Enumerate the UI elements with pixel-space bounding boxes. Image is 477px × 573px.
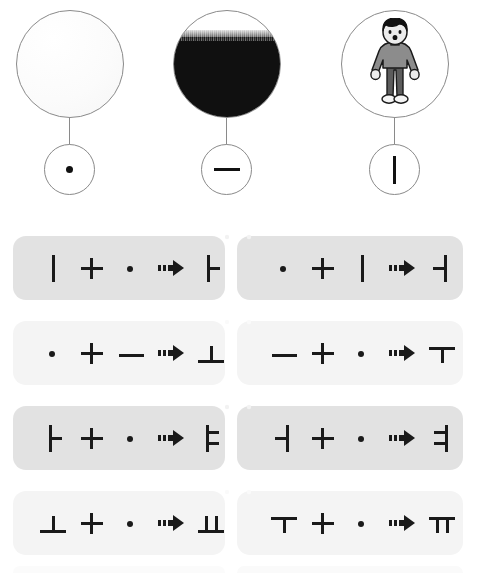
equation-row	[0, 231, 477, 303]
equation-pill[interactable]	[237, 321, 463, 385]
vertical-bar-jamo-icon	[349, 253, 375, 283]
equation	[245, 338, 455, 368]
plus-icon	[79, 338, 105, 368]
origin-connector-line	[394, 118, 395, 146]
right-arrow-icon	[388, 508, 416, 538]
origin-item-earth[interactable]	[163, 6, 293, 211]
vertical-bar-jamo-icon	[393, 156, 396, 184]
equation	[14, 508, 224, 538]
dot-jamo-icon	[349, 338, 375, 368]
vowel-combination-section	[0, 231, 477, 571]
equation-pill[interactable]	[13, 491, 225, 555]
right-arrow-icon	[157, 508, 185, 538]
dot-jamo-icon	[349, 508, 375, 538]
u-jamo-icon	[429, 338, 455, 368]
sky-circle-icon	[16, 10, 124, 118]
vertical-bar-jamo-icon	[40, 253, 66, 283]
equation	[14, 338, 224, 368]
equation-row	[0, 316, 477, 388]
equation-pill[interactable]	[13, 406, 225, 470]
equation-pill[interactable]	[237, 236, 463, 300]
yo-jamo-icon	[198, 508, 224, 538]
dot-jamo-icon	[271, 253, 297, 283]
earth-horizon-texture	[173, 30, 281, 41]
right-arrow-icon	[388, 253, 416, 283]
earth-circle-icon	[173, 10, 281, 118]
next-row-sliver	[237, 566, 463, 573]
plus-icon	[310, 338, 336, 368]
dot-jamo-icon	[118, 423, 144, 453]
equation	[14, 423, 224, 453]
eo-jamo-icon	[429, 253, 455, 283]
standing-person-illustration	[363, 18, 427, 110]
a-jamo-icon	[198, 253, 224, 283]
equation	[245, 423, 455, 453]
plus-icon	[310, 253, 336, 283]
equation-pill[interactable]	[13, 321, 225, 385]
right-arrow-icon	[388, 338, 416, 368]
o-jamo-icon	[40, 508, 66, 538]
dot-jamo-icon	[66, 166, 73, 173]
dot-jamo-icon	[118, 508, 144, 538]
origin-item-heaven[interactable]	[6, 6, 136, 211]
equation-row	[0, 486, 477, 558]
equation-pill[interactable]	[237, 406, 463, 470]
yu-jamo-icon	[429, 508, 455, 538]
right-arrow-icon	[157, 253, 185, 283]
ya-jamo-icon	[198, 423, 224, 453]
jamo-circle-i[interactable]	[369, 144, 420, 195]
plus-icon	[79, 253, 105, 283]
a-jamo-icon	[40, 423, 66, 453]
plus-icon	[79, 508, 105, 538]
origin-connector-line	[69, 118, 70, 146]
equation-row	[0, 401, 477, 473]
u-jamo-icon	[271, 508, 297, 538]
horizontal-bar-jamo-icon	[118, 338, 144, 368]
plus-icon	[310, 508, 336, 538]
earth-ground-fill	[173, 37, 281, 118]
equation-pill[interactable]	[237, 491, 463, 555]
equation	[245, 253, 455, 283]
jamo-circle-dot[interactable]	[44, 144, 95, 195]
equation-pill[interactable]	[13, 236, 225, 300]
right-arrow-icon	[157, 338, 185, 368]
equation	[14, 253, 224, 283]
origin-connector-line	[226, 118, 227, 146]
equation	[245, 508, 455, 538]
eo-jamo-icon	[271, 423, 297, 453]
plus-icon	[310, 423, 336, 453]
three-origins-section	[0, 0, 477, 218]
dot-jamo-icon	[349, 423, 375, 453]
plus-icon	[79, 423, 105, 453]
horizontal-bar-jamo-icon	[214, 168, 240, 171]
origin-item-human[interactable]	[331, 6, 461, 211]
next-row-sliver	[13, 566, 225, 573]
horizontal-bar-jamo-icon	[271, 338, 297, 368]
right-arrow-icon	[388, 423, 416, 453]
jamo-circle-eu[interactable]	[201, 144, 252, 195]
dot-jamo-icon	[40, 338, 66, 368]
person-circle-icon	[341, 10, 449, 118]
right-arrow-icon	[157, 423, 185, 453]
yeo-jamo-icon	[429, 423, 455, 453]
o-jamo-icon	[198, 338, 224, 368]
dot-jamo-icon	[118, 253, 144, 283]
